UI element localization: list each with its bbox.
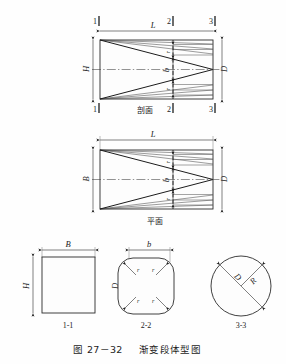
dim-label-H-1-1: H: [21, 282, 31, 290]
caption-number: 图 27－32: [73, 344, 122, 355]
dim-label-b-plan: b: [161, 178, 171, 182]
cross-section-1-1-group: B H 1-1: [21, 239, 95, 330]
section-marks-bottom: [99, 103, 215, 113]
plan-view-group: L: [81, 129, 229, 226]
section-mark-1-bottom: 1: [93, 105, 97, 114]
dim-label-B-plan: B: [81, 176, 91, 181]
section-marks-top: [99, 16, 215, 26]
cross-section-3-3-label: 3-3: [236, 321, 247, 330]
dim-label-b-2-2: b: [147, 239, 151, 249]
section-mark-3-bottom: 3: [209, 105, 213, 114]
dim-label-D-section: D: [219, 65, 229, 73]
plan-view-label: 平面: [147, 217, 163, 226]
dim-label-B-1-1: B: [65, 239, 70, 249]
figure-caption-group: 图 27－32 渐变段体型图: [73, 344, 201, 355]
cross-section-2-2-group: b D r r r r 2-2: [110, 239, 174, 330]
dim-label-H-section: H: [81, 65, 91, 73]
plan-extension-lines: [100, 136, 213, 150]
figure-page: 1 2 3 L: [0, 0, 286, 364]
dim-label-L-section: L: [150, 20, 156, 30]
section-view-label: 剖面: [137, 105, 153, 115]
cross-section-1-1-shape: [42, 257, 95, 313]
dim-label-b-section: b: [161, 68, 171, 72]
dim-label-L-plan: L: [150, 129, 156, 139]
dim-label-D-plan: D: [219, 175, 229, 183]
cross-section-1-1-label: 1-1: [63, 321, 74, 330]
engineering-drawing: 1 2 3 L: [0, 0, 286, 364]
section-view-group: 1 2 3 L: [81, 16, 229, 115]
section-mark-2-bottom: 2: [167, 105, 171, 114]
caption-title: 渐变段体型图: [139, 344, 201, 355]
cross-section-2-2-label: 2-2: [141, 321, 152, 330]
section-mark-3-top: 3: [209, 17, 213, 26]
cross-section-3-3-group: D R 3-3: [211, 256, 271, 330]
section-mark-1-top: 1: [93, 17, 97, 26]
cross-section-2-2-shape: [118, 258, 174, 314]
section-mark-2-top: 2: [167, 17, 171, 26]
